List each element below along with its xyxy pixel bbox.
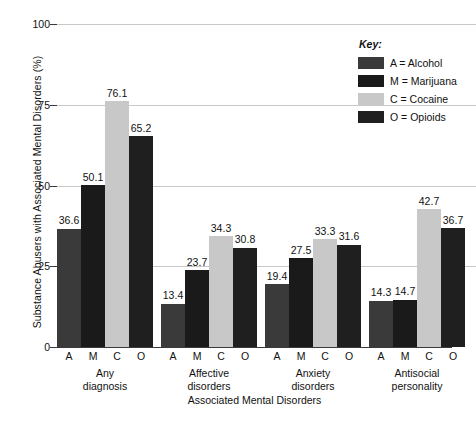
bar-value-label: 14.7 [395, 286, 415, 297]
bar [209, 236, 233, 347]
bar [233, 248, 257, 347]
bar-chart: Substance Abusers with Associated Mental… [0, 0, 476, 423]
bar-slot: 23.7 [185, 24, 209, 347]
bar-value-label: 65.2 [131, 123, 151, 134]
bar [289, 258, 313, 347]
legend-label: C = Cocaine [390, 93, 448, 105]
y-tick-label: 100 [32, 18, 50, 30]
legend-label: A = Alcohol [390, 57, 442, 69]
bar [369, 301, 393, 347]
x-axis-letter: C [417, 350, 441, 362]
bar-value-label: 31.6 [339, 231, 359, 242]
x-axis-title: Associated Mental Disorders [57, 394, 452, 406]
x-axis-letter: O [233, 350, 257, 362]
x-axis-letters: AMCO [369, 350, 465, 362]
bar-value-label: 19.4 [267, 271, 287, 282]
y-tick-mark [50, 24, 57, 25]
bar [441, 228, 465, 347]
x-axis-group: AMCOAntisocial personality [369, 350, 465, 392]
bar [393, 300, 417, 347]
bar [313, 239, 337, 347]
bar-slot: 27.5 [289, 24, 313, 347]
bar-value-label: 42.7 [419, 196, 439, 207]
x-axis-letter: O [441, 350, 465, 362]
bar-value-label: 13.4 [163, 290, 183, 301]
bar-value-label: 14.3 [371, 287, 391, 298]
legend-item: C = Cocaine [358, 90, 457, 108]
bar-group: 13.423.734.330.8 [161, 24, 257, 347]
bar-slot: 50.1 [81, 24, 105, 347]
bar-value-label: 27.5 [291, 245, 311, 256]
bar [417, 209, 441, 347]
y-tick-mark [50, 266, 57, 267]
bar-slot: 13.4 [161, 24, 185, 347]
bar-slot: 33.3 [313, 24, 337, 347]
legend-item: O = Opioids [358, 108, 457, 126]
x-axis-group-label: Any diagnosis [83, 367, 127, 392]
x-axis-group-label: Affective disorders [187, 367, 230, 392]
y-tick-label: 25 [38, 260, 50, 272]
legend-item: M = Marijuana [358, 72, 457, 90]
legend-title: Key: [359, 38, 457, 50]
legend-swatch [358, 57, 384, 69]
bar-value-label: 30.8 [235, 234, 255, 245]
y-tick-label: 75 [38, 99, 50, 111]
bar [57, 229, 81, 347]
x-axis-letter: A [57, 350, 81, 362]
x-axis-letter: A [265, 350, 289, 362]
bar [161, 304, 185, 347]
y-tick-label: 50 [38, 180, 50, 192]
y-tick-mark [50, 105, 57, 106]
bar-slot: 36.6 [57, 24, 81, 347]
bar-slot: 30.8 [233, 24, 257, 347]
bar [185, 270, 209, 347]
x-axis-group: AMCOAffective disorders [161, 350, 257, 392]
y-tick-mark [50, 186, 57, 187]
bar-slot: 19.4 [265, 24, 289, 347]
x-axis-letter: M [289, 350, 313, 362]
x-axis-letter: C [105, 350, 129, 362]
bar-value-label: 23.7 [187, 257, 207, 268]
bar-slot: 65.2 [129, 24, 153, 347]
x-axis-letter: M [393, 350, 417, 362]
x-axis-letter: M [81, 350, 105, 362]
x-axis-letters: AMCO [57, 350, 153, 362]
x-axis-letter: C [313, 350, 337, 362]
x-axis-letter: O [337, 350, 361, 362]
legend: Key: A = AlcoholM = MarijuanaC = Cocaine… [358, 38, 457, 126]
legend-label: O = Opioids [390, 111, 446, 123]
y-tick-mark [50, 347, 57, 348]
x-axis-group-label: Anxiety disorders [291, 367, 334, 392]
x-axis-letters: AMCO [161, 350, 257, 362]
legend-swatch [358, 93, 384, 105]
legend-rows: A = AlcoholM = MarijuanaC = CocaineO = O… [358, 54, 457, 126]
x-axis-group: AMCOAnxiety disorders [265, 350, 361, 392]
bar-group: 19.427.533.331.6 [265, 24, 361, 347]
bar-group: 36.650.176.165.2 [57, 24, 153, 347]
x-axis-letter: C [209, 350, 233, 362]
legend-swatch [358, 111, 384, 123]
bar [105, 101, 129, 347]
bar-slot: 76.1 [105, 24, 129, 347]
bar-value-label: 34.3 [211, 223, 231, 234]
x-axis-group-label: Antisocial personality [392, 367, 443, 392]
x-axis-letter: A [161, 350, 185, 362]
legend-item: A = Alcohol [358, 54, 457, 72]
legend-swatch [358, 75, 384, 87]
bar-value-label: 33.3 [315, 226, 335, 237]
x-axis-letter: M [185, 350, 209, 362]
bar-value-label: 50.1 [83, 172, 103, 183]
bar [337, 245, 361, 347]
x-axis-labels: AMCOAny diagnosisAMCOAffective disorders… [57, 350, 452, 392]
bar-slot: 34.3 [209, 24, 233, 347]
bar [265, 284, 289, 347]
bar-value-label: 36.6 [59, 215, 79, 226]
y-axis-title: Substance Abusers with Associated Mental… [31, 27, 43, 357]
bar [81, 185, 105, 347]
bar-value-label: 36.7 [443, 215, 463, 226]
legend-label: M = Marijuana [390, 75, 457, 87]
x-axis-letters: AMCO [265, 350, 361, 362]
axis-baseline [57, 347, 452, 348]
x-axis-letter: A [369, 350, 393, 362]
x-axis-letter: O [129, 350, 153, 362]
